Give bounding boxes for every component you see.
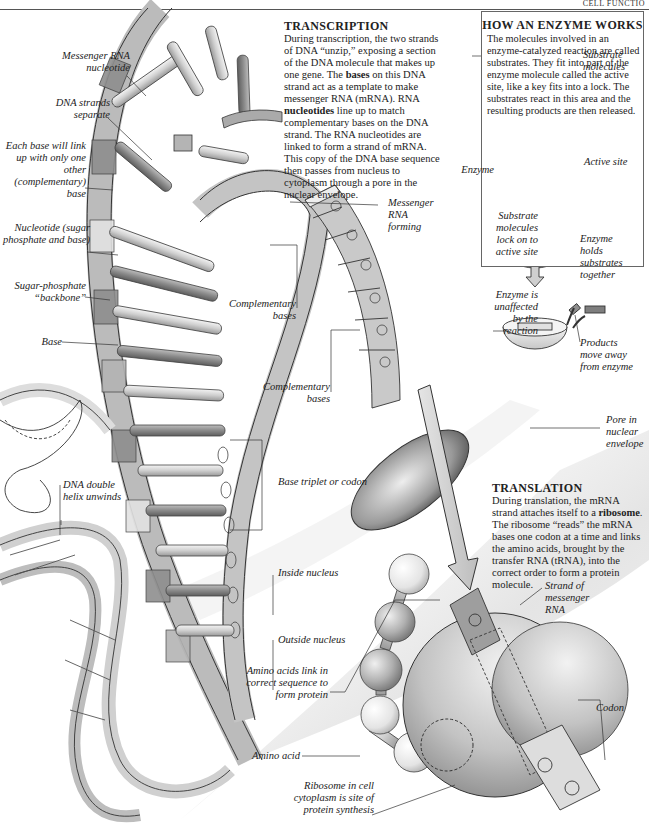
- label-messenger-rna-forming: Messenger RNA forming: [388, 197, 440, 233]
- translation-text-2: . The ribosome “reads” the mRNA bases on…: [492, 507, 642, 590]
- label-strand-mrna: Strand of messenger RNA: [545, 580, 605, 616]
- label-products-move: Products move away from enzyme: [580, 337, 642, 373]
- translation-text: During translation, the mRNA strand atta…: [492, 495, 647, 591]
- transcription-block: TRANSCRIPTION During transcription, the …: [284, 20, 444, 201]
- translation-block: TRANSLATION During translation, the mRNA…: [492, 482, 647, 591]
- label-amino-acid: Amino acid: [232, 750, 300, 762]
- label-outside-nucleus: Outside nucleus: [278, 634, 358, 646]
- term-ribosome: ribosome: [598, 507, 639, 518]
- enzyme-box-text: The molecules involved in an enzyme-cata…: [487, 33, 643, 117]
- label-complementary-bases-2: Complementary bases: [250, 381, 330, 405]
- label-each-base: Each base will link up with only one oth…: [2, 140, 86, 200]
- label-base: Base: [20, 336, 62, 348]
- rna-nucleotide: [174, 110, 282, 151]
- term-nucleotides: nucleotides: [284, 105, 334, 116]
- label-dna-strands-separate: DNA strands separate: [40, 97, 110, 121]
- label-base-triplet: Base triplet or codon: [278, 476, 388, 488]
- label-complementary-bases-1: Complementary bases: [220, 298, 296, 322]
- label-enzyme: Enzyme: [452, 164, 494, 176]
- label-messenger-rna-nucleotide: Messenger RNA nucleotide: [40, 50, 130, 74]
- label-nucleotide: Nucleotide (sugar phosphate and base): [2, 222, 90, 246]
- label-ribosome-site: Ribosome in cell cytoplasm is site of pr…: [268, 780, 374, 816]
- label-sugar-phosphate: Sugar-phosphate “backbone”: [2, 280, 86, 304]
- label-active-site: Active site: [584, 156, 644, 168]
- label-enzyme-unaffected: Enzyme is unaffected by the reaction: [482, 289, 538, 337]
- transcription-text-3: line up to match complementary bases on …: [284, 105, 440, 200]
- label-amino-acids-link: Amino acids link in correct sequence to …: [228, 665, 328, 701]
- transcription-title: TRANSCRIPTION: [284, 20, 444, 32]
- label-substrates-lock: Substrate molecules lock on to active si…: [482, 210, 538, 258]
- term-bases: bases: [346, 69, 370, 80]
- label-codon: Codon: [596, 702, 636, 714]
- label-pore: Pore in nuclear envelope: [606, 414, 649, 450]
- enzyme-box-title: HOW AN ENZYME WORKS: [482, 18, 643, 33]
- translation-title: TRANSLATION: [492, 482, 647, 494]
- label-enzyme-holds: Enzyme holds substrates together: [580, 233, 638, 281]
- label-inside-nucleus: Inside nucleus: [278, 567, 358, 579]
- label-dna-double-helix: DNA double helix unwinds: [63, 479, 133, 503]
- label-substrate-molecules: Substrate molecules: [583, 49, 641, 73]
- transcription-text: During transcription, the two strands of…: [284, 33, 444, 201]
